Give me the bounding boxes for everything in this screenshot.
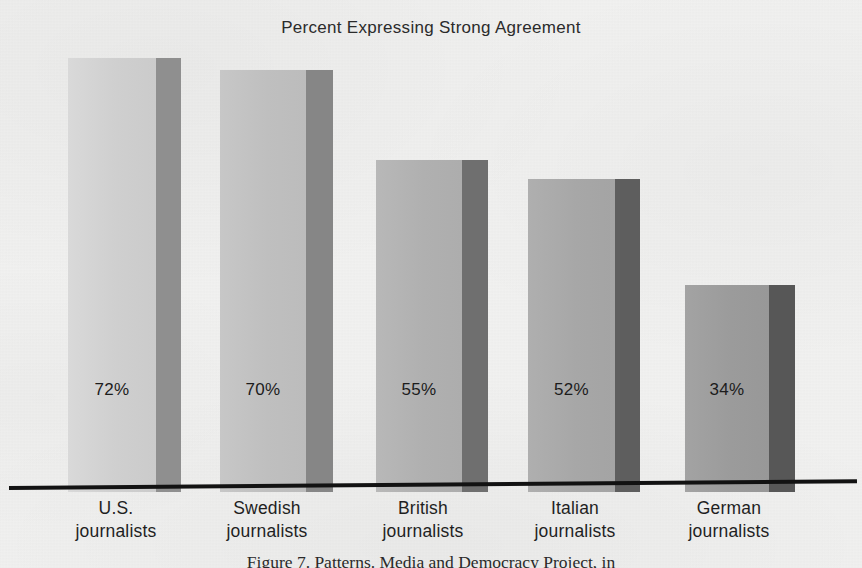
category-label-0-line1: U.S. [46,497,186,520]
bar-2[interactable] [376,160,462,492]
category-label-4: German journalists [654,497,804,543]
category-label-3: Italian journalists [500,497,650,543]
bar-group-1: 70% [220,70,306,492]
category-label-4-line1: German [654,497,804,520]
category-label-2-line1: British [348,497,498,520]
figure-caption: Figure 7. Patterns. Media and Democracy … [0,552,862,568]
category-label-3-line1: Italian [500,497,650,520]
category-label-1-line1: Swedish [192,497,342,520]
bar-value-label-3: 52% [528,380,615,400]
bar-1[interactable] [220,70,306,492]
bar-3[interactable] [528,179,615,492]
bar-value-label-0: 72% [68,380,156,400]
bar-value-label-1: 70% [220,380,306,400]
bar-side-face-4 [769,285,795,492]
category-label-4-line2: journalists [654,520,804,543]
bar-side-face-2 [462,160,488,492]
bar-side-face-1 [306,70,333,492]
bar-0[interactable] [68,58,156,492]
category-label-2-line2: journalists [348,520,498,543]
category-label-0: U.S. journalists [46,497,186,543]
category-label-1: Swedish journalists [192,497,342,543]
bar-value-label-2: 55% [376,380,462,400]
bar-chart: Percent Expressing Strong Agreement 72% … [0,0,862,568]
x-axis-category-labels: U.S. journalists Swedish journalists Bri… [0,497,862,553]
bar-group-3: 52% [528,179,615,492]
bar-side-face-0 [156,58,181,492]
bar-group-2: 55% [376,160,462,492]
bar-group-4: 34% [685,285,769,492]
bar-group-0: 72% [68,58,156,492]
category-label-3-line2: journalists [500,520,650,543]
category-label-2: British journalists [348,497,498,543]
bar-value-label-4: 34% [685,380,769,400]
category-label-0-line2: journalists [46,520,186,543]
category-label-1-line2: journalists [192,520,342,543]
bar-side-face-3 [615,179,640,492]
plot-area: 72% 70% 55% 52% 34% [0,0,862,492]
